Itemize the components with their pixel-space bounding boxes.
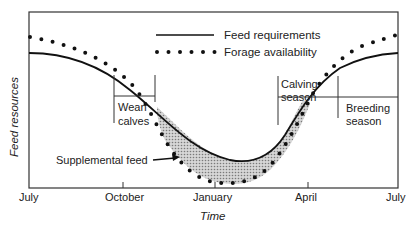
wean-label-line2: calves [118,115,150,127]
wean-label-line1: Wean [118,101,147,113]
x-axis-ticks [123,182,308,188]
x-tick-april: April [295,191,317,203]
breeding-label-line2: season [346,115,381,127]
legend: Feed requirements Forage availability [156,29,321,58]
supplemental-feed-region [157,100,310,184]
x-axis-label: Time [200,210,225,222]
breeding-label-line1: Breeding [346,102,390,114]
calving-label-line1: Calving [281,78,318,90]
supplemental-feed-arrow [153,154,180,161]
x-tick-july-start: July [19,191,39,203]
supplemental-feed-label: Supplemental feed [56,154,148,166]
feed-resources-diagram: Feed requirements Forage availability We… [0,0,417,230]
y-axis-label: Feed resources [8,77,20,157]
legend-forage-availability: Forage availability [224,46,317,58]
calving-label-line2: season [281,91,316,103]
x-tick-october: October [105,191,144,203]
x-tick-january: January [193,191,233,203]
x-tick-july-end: July [386,191,406,203]
legend-feed-requirements: Feed requirements [224,29,321,41]
feed-requirements-line [29,53,398,161]
